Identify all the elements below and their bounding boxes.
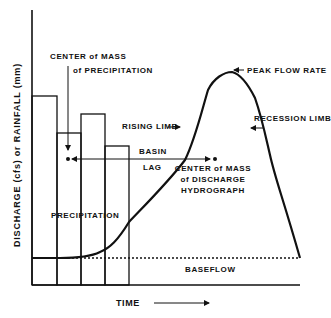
- precip-bar-1: [32, 96, 57, 285]
- precipitation-label: PRECIPITATION: [51, 211, 119, 221]
- center-precip-label-2: of PRECIPITATION: [73, 66, 153, 76]
- center-discharge-dot: [213, 157, 217, 161]
- center-discharge-label-3: HYDROGRAPH: [168, 186, 258, 196]
- lag-label: LAG: [143, 163, 162, 173]
- rising-limb-label: RISING LIMB: [122, 122, 178, 132]
- y-axis-label: DISCHARGE (cfs) or RAINFALL (mm): [12, 50, 22, 260]
- peak-flow-label: PEAK FLOW RATE: [247, 66, 327, 76]
- hydrograph-curve: [32, 72, 300, 258]
- precip-bar-2: [57, 133, 81, 285]
- center-precip-label-1: CENTER of MASS: [50, 52, 126, 62]
- baseflow-label: BASEFLOW: [185, 265, 236, 275]
- center-discharge-label-1: CENTER of MASS: [168, 164, 258, 174]
- recession-limb-label: RECESSION LIMB: [254, 114, 331, 124]
- basin-label: BASIN: [139, 147, 167, 157]
- hydrograph-svg: [0, 0, 331, 318]
- center-precip-dot: [66, 157, 70, 161]
- center-discharge-label-2: of DISCHARGE: [168, 175, 258, 185]
- hydrograph-diagram: DISCHARGE (cfs) or RAINFALL (mm) CENTER …: [0, 0, 331, 318]
- x-axis-label: TIME: [116, 298, 140, 308]
- precip-bar-3: [81, 114, 105, 285]
